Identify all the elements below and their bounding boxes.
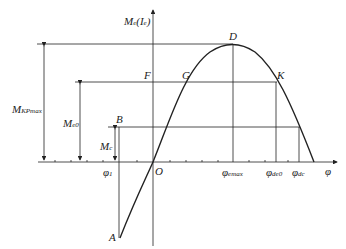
tick-phi-dc: φdc (292, 167, 305, 178)
x-axis-label: φ (325, 166, 331, 177)
tick-phi1: φ1 (103, 167, 113, 178)
y-axis-label: Me(Ie) (124, 16, 150, 27)
tick-phi-emax: φemax (222, 167, 243, 178)
point-F-label: F (144, 70, 151, 81)
point-O-label: O (155, 166, 163, 177)
tick-phi-de0: φde0 (266, 167, 282, 178)
point-K-label: K (277, 70, 284, 81)
point-A-label: A (109, 232, 116, 243)
diagram-canvas (0, 0, 346, 249)
label-M-e0: Me0 (63, 118, 79, 129)
point-D-label: D (229, 31, 237, 42)
point-B-label: B (116, 114, 123, 125)
torque-angle-diagram: Me(Ie) φ D F G K B O A φ1 φemax φde0 φdc… (0, 0, 346, 249)
point-G-label: G (182, 70, 190, 81)
label-M-c: Mc (100, 141, 112, 152)
label-M-KPmax: MKPmax (12, 104, 42, 115)
